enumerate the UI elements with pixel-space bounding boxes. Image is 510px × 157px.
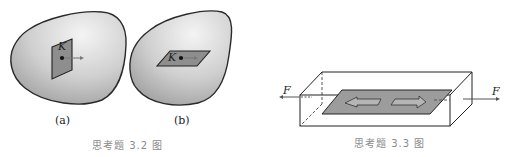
figures-canvas [0,0,510,157]
subfigure-label-a: (a) [55,114,70,127]
caption-figure-3-3: 思考题 3.3 图 [354,135,425,150]
subfigure-label-b: (b) [174,114,190,127]
point-label-k-b: K [168,51,176,64]
force-label-left: F [283,84,291,97]
force-label-right: F [492,85,500,98]
body-a [11,12,126,104]
point-k-a [60,56,64,60]
point-label-k-a: K [58,40,66,53]
internal-plane-3-3 [322,90,452,114]
point-k-b [179,56,183,60]
caption-figure-3-2: 思考题 3.2 图 [92,137,163,152]
body-b [130,11,232,105]
